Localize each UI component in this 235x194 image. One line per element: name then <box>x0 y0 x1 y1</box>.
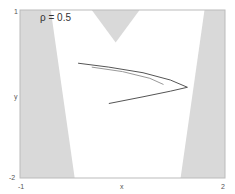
y-axis-label: y <box>14 93 18 100</box>
x-tick-right: 2 <box>221 183 225 190</box>
shaded-regions <box>20 10 225 178</box>
region-top-v <box>92 10 140 42</box>
y-tick-bottom: -2 <box>9 174 15 181</box>
x-tick-left: -1 <box>18 183 24 190</box>
phase-plot <box>0 0 235 194</box>
x-axis-label: x <box>120 183 124 190</box>
y-tick-top: 1 <box>14 8 18 15</box>
region-right-wedge <box>181 10 225 178</box>
trajectory-curves <box>78 63 187 103</box>
region-left-wedge <box>20 10 75 178</box>
plot-title: ρ = 0.5 <box>40 13 71 23</box>
series-outer-curve <box>78 63 187 103</box>
